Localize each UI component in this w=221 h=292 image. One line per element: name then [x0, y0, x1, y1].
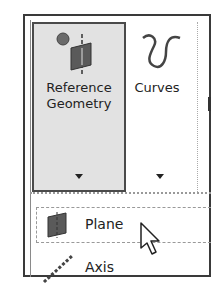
curves-label: Curves	[126, 80, 188, 96]
plane-label: Plane	[85, 216, 123, 232]
ribbon-scroll-marker	[208, 97, 211, 111]
reference-label-line2: Geometry	[32, 96, 126, 112]
chevron-down-icon[interactable]	[75, 174, 83, 179]
dropdown-separator	[30, 192, 211, 194]
axis-label[interactable]: Axis	[85, 259, 114, 275]
reference-geometry-icon	[55, 30, 99, 78]
reference-label-line1: Reference	[32, 80, 126, 96]
mouse-cursor-icon	[140, 222, 166, 256]
axis-icon	[40, 254, 74, 284]
curves-icon	[140, 32, 184, 72]
chevron-down-icon[interactable]	[156, 174, 164, 179]
panel-inner-border	[30, 20, 31, 277]
curves-label-text: Curves	[126, 80, 188, 96]
ribbon-divider	[197, 22, 198, 192]
reference-geometry-label: Reference Geometry	[32, 80, 126, 112]
plane-icon	[46, 212, 70, 238]
